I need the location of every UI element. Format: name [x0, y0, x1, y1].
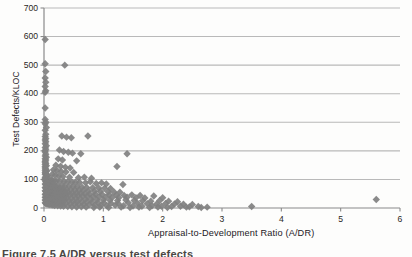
figure-caption: Figure 7.5 A/DR versus test defects — [2, 248, 193, 257]
data-point — [84, 132, 91, 139]
y-tick-label: 100 — [12, 174, 38, 184]
x-tick-label: 3 — [212, 214, 232, 224]
x-tick-label: 6 — [390, 214, 410, 224]
y-tick-label: 200 — [12, 145, 38, 155]
x-tick-label: 1 — [93, 214, 113, 224]
data-point — [113, 163, 120, 170]
y-tick-label: 300 — [12, 117, 38, 127]
x-tick-label: 4 — [271, 214, 291, 224]
y-tick-label: 0 — [12, 203, 38, 213]
data-point — [248, 203, 255, 210]
y-tick-label: 600 — [12, 31, 38, 41]
x-axis-title: Appraisal-to-Development Ratio (A/DR) — [148, 228, 314, 238]
data-point — [42, 68, 49, 75]
y-tick-label: 500 — [12, 60, 38, 70]
data-point — [73, 157, 80, 164]
y-tick-label: 400 — [12, 88, 38, 98]
x-tick-label: 2 — [153, 214, 173, 224]
data-point-group — [41, 36, 379, 211]
data-point — [68, 134, 75, 141]
y-tick-label: 700 — [12, 3, 38, 13]
data-point — [41, 104, 48, 111]
data-point — [41, 60, 48, 67]
x-tick-label: 0 — [34, 214, 54, 224]
data-point — [373, 196, 380, 203]
data-point — [61, 61, 68, 68]
data-point — [119, 181, 126, 188]
x-tick-label: 5 — [331, 214, 351, 224]
figure-container: Appraisal-to-Development Ratio (A/DR) Te… — [0, 0, 412, 257]
